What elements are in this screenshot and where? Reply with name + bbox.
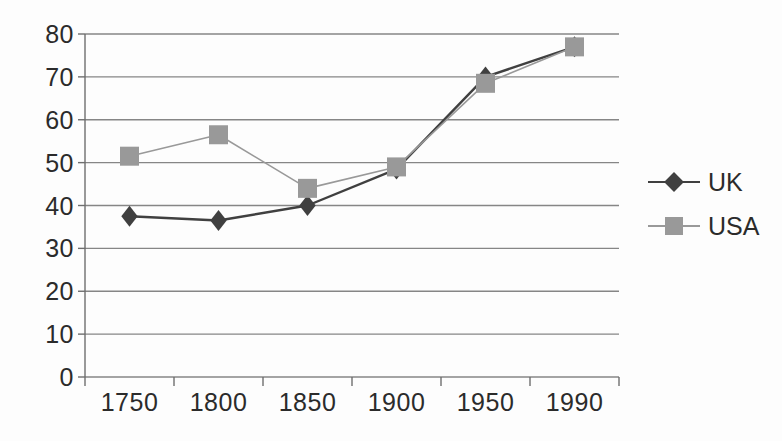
chart-legend: UKUSA xyxy=(648,160,773,248)
series-line-uk xyxy=(130,47,575,221)
legend-item-uk[interactable]: UK xyxy=(648,160,773,204)
y-tick-label: 70 xyxy=(45,62,74,91)
data-point-uk-1750 xyxy=(121,206,137,227)
plot-svg xyxy=(85,34,619,377)
series-line-usa xyxy=(130,47,575,188)
x-tick-label: 1850 xyxy=(279,388,337,417)
y-tick-label: 60 xyxy=(45,105,74,134)
plot-area xyxy=(85,34,619,377)
y-tick-label: 0 xyxy=(60,363,74,392)
data-point-usa-1800 xyxy=(209,125,228,144)
y-tick-label: 30 xyxy=(45,234,74,263)
legend-item-usa[interactable]: USA xyxy=(648,204,773,248)
legend-symbol-uk xyxy=(648,172,700,192)
x-tick-label: 1750 xyxy=(101,388,159,417)
x-tick-label: 1990 xyxy=(546,388,604,417)
x-axis: 175018001850190019501990 xyxy=(85,388,619,428)
x-tick-label: 1900 xyxy=(368,388,426,417)
y-tick-label: 10 xyxy=(45,320,74,349)
data-point-uk-1800 xyxy=(210,210,226,231)
legend-label: USA xyxy=(708,212,759,241)
y-axis: 01020304050607080 xyxy=(0,34,74,377)
x-tick-label: 1950 xyxy=(457,388,515,417)
y-tick-label: 80 xyxy=(45,20,74,49)
legend-diamond-marker-icon xyxy=(664,172,684,192)
legend-symbol-usa xyxy=(648,216,700,236)
data-point-usa-1990 xyxy=(565,37,584,56)
y-tick-label: 40 xyxy=(45,191,74,220)
y-tick-label: 50 xyxy=(45,148,74,177)
y-tick-label: 20 xyxy=(45,277,74,306)
line-chart: 01020304050607080 1750180018501900195019… xyxy=(0,0,782,441)
data-point-usa-1750 xyxy=(120,147,139,166)
data-point-usa-1950 xyxy=(476,74,495,93)
x-tick-label: 1800 xyxy=(190,388,248,417)
legend-label: UK xyxy=(708,168,743,197)
data-point-usa-1850 xyxy=(298,179,317,198)
legend-square-marker-icon xyxy=(665,217,683,235)
data-point-uk-1850 xyxy=(299,195,315,216)
data-point-usa-1900 xyxy=(387,157,406,176)
